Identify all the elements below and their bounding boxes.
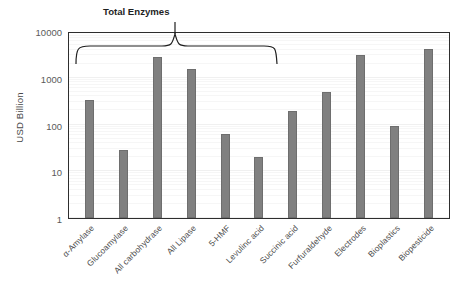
bar[interactable] bbox=[390, 126, 399, 218]
plot-area bbox=[68, 32, 450, 219]
bar-slot bbox=[242, 33, 276, 218]
bar-slot bbox=[141, 33, 175, 218]
bar-slot bbox=[344, 33, 378, 218]
x-axis-tick-labels: α-AmylaseGlucoamylaseAll carbohydraseAll… bbox=[68, 221, 450, 303]
x-axis-tick-slot: Electrodes bbox=[344, 221, 378, 303]
annotation-label: Total Enzymes bbox=[103, 6, 169, 17]
y-axis-tick: 1 bbox=[16, 214, 62, 225]
bar[interactable] bbox=[85, 100, 94, 218]
bar-slot bbox=[276, 33, 310, 218]
bar-slot bbox=[174, 33, 208, 218]
x-axis-tick-slot: Furfuraldehyde bbox=[310, 221, 344, 303]
bar-slot bbox=[208, 33, 242, 218]
bar[interactable] bbox=[322, 92, 331, 218]
x-axis-tick-slot: Bioplastics bbox=[378, 221, 412, 303]
bar[interactable] bbox=[119, 150, 128, 218]
bar[interactable] bbox=[356, 55, 365, 218]
y-axis-tick: 100 bbox=[16, 120, 62, 131]
bar[interactable] bbox=[221, 134, 230, 218]
bar[interactable] bbox=[254, 157, 263, 218]
x-axis-tick-slot: Levulinc acid bbox=[242, 221, 276, 303]
x-axis-tick-slot: Biopesticide bbox=[412, 221, 446, 303]
bar-slot bbox=[73, 33, 107, 218]
x-axis-tick-slot: 5-HMF bbox=[208, 221, 242, 303]
x-axis-tick-slot: All carbohydrase bbox=[140, 221, 174, 303]
bar-series bbox=[69, 33, 449, 218]
y-axis-tick-labels: 100001000100101 bbox=[16, 0, 62, 305]
bar-slot bbox=[107, 33, 141, 218]
bar-slot bbox=[411, 33, 445, 218]
y-axis-tick: 10 bbox=[16, 167, 62, 178]
bar[interactable] bbox=[187, 69, 196, 218]
bar[interactable] bbox=[288, 111, 297, 218]
x-axis-tick: 5-HMF bbox=[207, 223, 233, 249]
bar[interactable] bbox=[424, 49, 433, 218]
y-axis-tick: 1000 bbox=[16, 73, 62, 84]
bar-slot bbox=[310, 33, 344, 218]
bar-slot bbox=[377, 33, 411, 218]
x-axis-tick-slot: All Lipase bbox=[174, 221, 208, 303]
bar[interactable] bbox=[153, 57, 162, 218]
y-axis-tick: 10000 bbox=[16, 27, 62, 38]
bar-chart: USD Billion 100001000100101 α-AmylaseGlu… bbox=[0, 0, 465, 305]
